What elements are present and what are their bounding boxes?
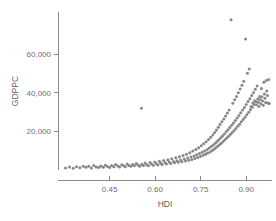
data-point (72, 167, 75, 170)
data-point (196, 156, 199, 159)
data-point (87, 165, 90, 168)
data-point (195, 153, 198, 156)
data-point (133, 164, 136, 167)
data-point (178, 155, 181, 158)
data-point (224, 115, 227, 118)
data-point (246, 72, 249, 75)
data-point (68, 166, 71, 169)
data-point (215, 128, 218, 131)
data-point (165, 162, 168, 165)
data-point (244, 37, 247, 40)
data-point (247, 111, 250, 114)
data-point (182, 154, 185, 157)
data-point (262, 104, 265, 107)
data-point (64, 166, 67, 169)
data-point (243, 106, 246, 109)
y-axis-title: GDPPC (10, 76, 20, 106)
x-tick-label: 0.60 (147, 185, 163, 194)
data-point (226, 111, 229, 114)
data-point (197, 146, 200, 149)
x-axis-title: HDI (158, 199, 173, 209)
data-point (188, 151, 191, 154)
data-point (235, 95, 238, 98)
data-point (228, 108, 231, 111)
axes-group (54, 12, 272, 181)
data-point (84, 166, 87, 169)
data-point (82, 165, 85, 168)
data-point (222, 117, 225, 120)
data-point (260, 95, 263, 98)
data-point (174, 156, 177, 159)
data-point (200, 144, 203, 147)
data-point (211, 133, 214, 136)
data-point (240, 84, 243, 87)
data-point (185, 153, 188, 156)
data-point (124, 165, 127, 168)
data-point (245, 113, 248, 116)
data-point (190, 158, 193, 161)
y-tick-label: 60,000 (27, 50, 52, 59)
data-point (140, 107, 143, 110)
data-point (251, 106, 254, 109)
data-point (170, 157, 173, 160)
data-point (193, 157, 196, 160)
data-point (263, 92, 266, 95)
data-point (219, 123, 222, 126)
data-point (242, 80, 245, 83)
data-point (202, 142, 205, 145)
data-point (260, 87, 263, 90)
data-point (236, 116, 239, 119)
scatter-chart: 20,00040,00060,0000.450.600.750.90HDIGDP… (0, 0, 276, 221)
data-point (248, 68, 251, 71)
data-point (265, 90, 268, 93)
data-point (230, 18, 233, 21)
data-point (261, 100, 264, 103)
x-tick-label: 0.75 (193, 185, 209, 194)
data-point (262, 81, 265, 84)
data-point (266, 94, 269, 97)
data-point (237, 91, 240, 94)
data-point (152, 164, 155, 167)
data-point (213, 131, 216, 134)
data-point (173, 161, 176, 164)
data-point (234, 119, 237, 122)
data-point (169, 162, 172, 165)
data-point (231, 102, 234, 105)
data-point (267, 78, 270, 81)
data-point (239, 111, 242, 114)
data-point (220, 120, 223, 123)
data-points-group (64, 18, 271, 170)
data-point (177, 161, 180, 164)
data-point (187, 159, 190, 162)
data-point (184, 159, 187, 162)
data-point (257, 105, 260, 108)
data-point (264, 97, 267, 100)
data-point (198, 152, 201, 155)
data-point (232, 121, 235, 124)
data-point (256, 84, 259, 87)
data-point (191, 150, 194, 153)
data-point (245, 103, 248, 106)
data-point (209, 136, 212, 139)
plot-area: 20,00040,00060,0000.450.600.750.90HDIGDP… (0, 0, 276, 221)
data-point (118, 166, 121, 169)
data-point (248, 97, 251, 100)
data-point (161, 163, 164, 166)
data-point (78, 166, 81, 169)
data-point (250, 94, 253, 97)
y-tick-label: 40,000 (27, 89, 52, 98)
x-tick-label: 0.45 (102, 185, 118, 194)
x-tick-label: 0.90 (238, 185, 254, 194)
data-point (199, 155, 202, 158)
data-point (217, 126, 220, 129)
data-point (249, 108, 252, 111)
data-point (90, 167, 93, 170)
data-point (243, 116, 246, 119)
data-point (237, 114, 240, 117)
y-tick-label: 20,000 (27, 127, 52, 136)
data-point (205, 140, 208, 143)
data-point (241, 109, 244, 112)
data-point (268, 102, 271, 105)
data-point (207, 138, 210, 141)
data-point (233, 98, 236, 101)
